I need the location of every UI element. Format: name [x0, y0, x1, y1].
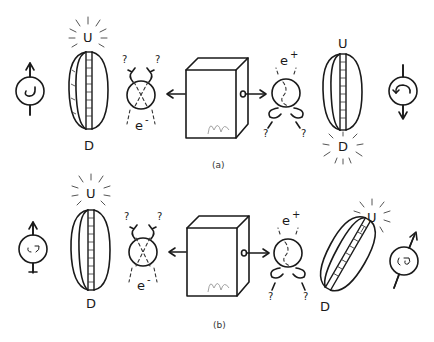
question-mark: ?: [157, 211, 162, 222]
electron-particle: ? ? e -: [122, 54, 160, 133]
particle-label: e: [137, 278, 145, 293]
source-box: [186, 58, 248, 138]
charge-sign: -: [145, 114, 149, 125]
particle-label: e: [282, 213, 290, 228]
question-mark: ?: [122, 54, 127, 65]
detector-label-d: D: [86, 296, 96, 311]
particle-label: e: [135, 118, 143, 133]
detector-label-u: U: [338, 36, 348, 51]
detector-label-d: D: [320, 299, 330, 314]
detector-label-u: U: [367, 210, 377, 225]
charge-sign: +: [290, 49, 298, 60]
particle-label: e: [280, 53, 288, 68]
source-box: [187, 216, 249, 296]
question-mark: ?: [124, 211, 129, 222]
panel-b: U D ? ? e -: [19, 174, 418, 330]
panel-caption: (a): [212, 160, 225, 170]
figure-canvas: U D ? ? e -: [0, 0, 434, 342]
question-mark: ?: [303, 291, 308, 302]
detector-label-u: U: [83, 30, 93, 45]
spin-up-icon: [19, 222, 47, 273]
panel-a: U D ? ? e -: [16, 17, 417, 170]
question-mark: ?: [263, 128, 268, 139]
right-detector-tilted: U D: [311, 199, 390, 314]
right-detector: U D: [323, 36, 363, 164]
electron-particle: ? ? e -: [124, 211, 162, 293]
positron-particle: ? ? e +: [263, 49, 306, 139]
panel-caption: (b): [213, 320, 226, 330]
question-mark: ?: [301, 128, 306, 139]
charge-sign: -: [147, 274, 151, 285]
spin-up-icon: [16, 63, 44, 115]
question-mark: ?: [268, 291, 273, 302]
detector-label-d: D: [338, 139, 348, 154]
detector-label-u: U: [86, 186, 96, 201]
charge-sign: +: [292, 209, 300, 220]
question-mark: ?: [155, 54, 160, 65]
left-detector: U D: [71, 174, 110, 311]
spin-tilted-icon: [390, 232, 418, 288]
detector-label-d: D: [84, 138, 94, 153]
left-detector: U D: [69, 17, 108, 153]
spin-down-icon: [389, 65, 417, 119]
positron-particle: ? ? e +: [268, 209, 308, 302]
